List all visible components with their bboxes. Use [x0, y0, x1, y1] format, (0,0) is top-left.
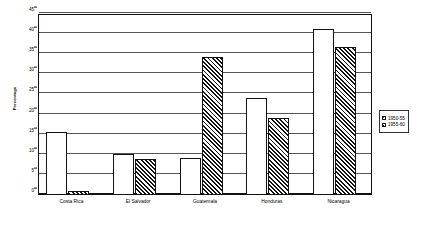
y-axis-tick-mark — [34, 107, 37, 108]
legend-item: 1955-60 — [382, 122, 405, 127]
y-axis-tick-mark — [34, 167, 37, 168]
y-axis-tick-mark — [34, 67, 37, 68]
legend-label: 1950-55 — [388, 116, 405, 121]
x-axis-category-label: El Salvador — [102, 199, 174, 204]
bar — [246, 98, 267, 195]
x-axis-category-labels: Costa RicaEl SalvadorGuatemalaHondurasNi… — [38, 199, 372, 211]
y-axis-tick-label: 25 — [29, 87, 34, 92]
y-axis-title: Percentage — [12, 69, 17, 129]
y-axis-tick-label: 0 — [31, 188, 34, 193]
bar — [135, 159, 156, 195]
x-axis-category-label: Guatemala — [169, 199, 241, 204]
bar-chart: Percentage 051015202530354045 Costa Rica… — [0, 0, 431, 230]
x-axis-category-label: Costa Rica — [35, 199, 107, 204]
bar — [202, 57, 223, 195]
bars-layer — [38, 14, 372, 195]
gridline — [39, 12, 371, 13]
y-axis-tick-mark — [34, 7, 37, 8]
legend-swatch-1950-55-icon — [382, 116, 386, 120]
bar-group — [238, 14, 305, 195]
y-axis-tick-label: 45 — [29, 7, 34, 12]
legend-item: 1950-55 — [382, 116, 405, 121]
chart-legend: 1950-55 1955-60 — [379, 110, 409, 133]
x-axis-category-label: Honduras — [236, 199, 308, 204]
y-axis-tick-mark — [34, 147, 37, 148]
y-axis-tick-mark — [34, 188, 37, 189]
legend-swatch-1955-60-icon — [382, 123, 386, 127]
bar — [335, 47, 356, 195]
bar-group — [172, 14, 239, 195]
y-axis-tick-mark — [34, 87, 37, 88]
bar — [46, 132, 67, 195]
legend-label: 1955-60 — [388, 122, 405, 127]
bar-group — [305, 14, 372, 195]
bar — [68, 191, 89, 195]
y-axis-tick-label: 30 — [29, 67, 34, 72]
y-axis-tick-label: 15 — [29, 127, 34, 132]
bar — [268, 118, 289, 195]
bar — [180, 158, 201, 195]
bar-group — [38, 14, 105, 195]
y-axis-tick-label: 35 — [29, 47, 34, 52]
bar-group — [105, 14, 172, 195]
bar — [113, 154, 134, 195]
y-axis-tick-label: 20 — [29, 107, 34, 112]
y-axis-tick-mark — [34, 127, 37, 128]
y-axis-tick-mark — [34, 27, 37, 28]
y-axis-tick-labels: 051015202530354045 — [18, 14, 36, 195]
y-axis-tick-label: 40 — [29, 27, 34, 32]
y-axis-tick-label: 10 — [29, 147, 34, 152]
y-axis-tick-label: 5 — [31, 167, 34, 172]
x-axis-category-label: Nicaragua — [303, 199, 375, 204]
y-axis-tick-mark — [34, 47, 37, 48]
bar — [313, 29, 334, 195]
